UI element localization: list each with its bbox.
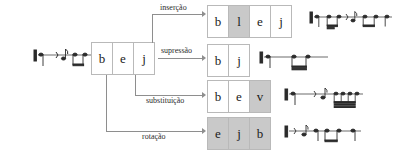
rotacao-cell-j: j: [228, 117, 250, 150]
supressao-cell-j: j: [228, 44, 250, 77]
connector-substituicao-vertical: [135, 75, 136, 96]
label-supressao: supressão: [161, 46, 192, 55]
substituicao-cell-v: v: [249, 80, 271, 113]
connector-rotacao-vertical: [106, 75, 107, 132]
connector-supressao-horizontal: [158, 58, 203, 59]
label-substituicao: substituição: [146, 96, 184, 105]
arrow-insercao: [202, 11, 206, 17]
insercao-cell-b: b: [207, 5, 229, 38]
connector-insercao-horizontal: [152, 14, 203, 15]
label-rotacao: rotação: [142, 132, 166, 141]
insercao-cell-j: j: [270, 5, 292, 38]
rotacao-cell-b: b: [249, 117, 271, 150]
substituicao-cell-b: b: [207, 80, 229, 113]
result-box-insercao: blej: [207, 5, 291, 38]
arrow-rotacao: [202, 128, 206, 134]
result-box-substituicao: bev: [207, 80, 270, 113]
staff-original: [30, 44, 96, 74]
diagram-canvas: bej inserção supressão substituição rota…: [0, 0, 398, 151]
source-cell-b: b: [91, 42, 113, 75]
rotacao-cell-e: e: [207, 117, 229, 150]
insercao-cell-l: l: [228, 5, 250, 38]
source-word-box: bej: [91, 42, 154, 75]
staff-supressao: [258, 46, 330, 76]
staff-insercao: [308, 6, 394, 36]
result-box-rotacao: ejb: [207, 117, 270, 150]
result-box-supressao: bj: [207, 44, 249, 77]
staff-substituicao: [283, 83, 369, 113]
insercao-cell-e: e: [249, 5, 271, 38]
connector-insercao-vertical: [152, 14, 153, 43]
label-insercao: inserção: [160, 3, 187, 12]
arrow-supressao: [202, 55, 206, 61]
substituicao-cell-e: e: [228, 80, 250, 113]
source-cell-j: j: [133, 42, 155, 75]
supressao-cell-b: b: [207, 44, 229, 77]
source-cell-e: e: [112, 42, 134, 75]
staff-rotacao: [283, 120, 365, 150]
arrow-substituicao: [202, 92, 206, 98]
